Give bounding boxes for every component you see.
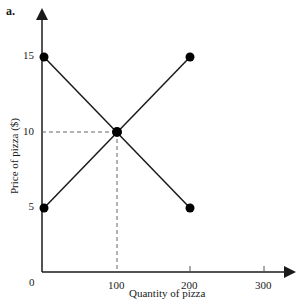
x-axis-title: Quantity of pizza (129, 287, 205, 299)
axes (42, 14, 290, 272)
y-axis-title: Price of pizza ($) (8, 106, 20, 206)
demand-point-start (40, 53, 49, 62)
chart-canvas (0, 0, 300, 300)
y-tick-label: 5 (29, 200, 35, 212)
y-tick-label: 15 (23, 49, 34, 61)
x-tick-label: 100 (108, 279, 125, 291)
x-tick-label: 0 (29, 276, 35, 288)
demand-point-end (186, 204, 195, 213)
y-tick-label: 10 (23, 125, 34, 137)
equilibrium-point (112, 127, 122, 137)
supply-point-end (186, 53, 195, 62)
x-tick-label: 300 (255, 279, 272, 291)
supply-point-start (40, 204, 49, 213)
equilibrium-guides (42, 132, 117, 272)
x-ticks (190, 266, 264, 272)
